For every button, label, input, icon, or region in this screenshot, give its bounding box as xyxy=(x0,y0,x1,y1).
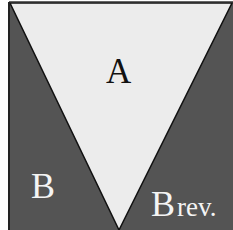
label-b: B xyxy=(31,168,55,204)
diagram: A B Brev. xyxy=(0,0,233,230)
label-b-rev-main: B xyxy=(151,184,175,224)
label-a: A xyxy=(106,54,131,89)
label-b-rev-suffix: rev. xyxy=(177,192,216,222)
label-b-rev: Brev. xyxy=(151,186,217,222)
